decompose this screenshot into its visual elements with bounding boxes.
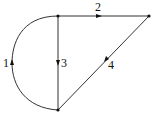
- edge-1: [12, 16, 58, 110]
- edge-4-label: 4: [108, 58, 114, 72]
- node-top: [56, 14, 59, 17]
- edge-3-label: 3: [61, 56, 67, 70]
- node-right: [147, 14, 150, 17]
- edge-1-arrow-icon: [10, 59, 14, 65]
- edge-2-arrow-icon: [96, 14, 102, 18]
- graph-diagram: 1 2 3 4: [0, 0, 152, 113]
- edge-3-arrow-icon: [56, 60, 60, 66]
- edge-2-label: 2: [95, 0, 101, 14]
- graph-svg: 1 2 3 4: [0, 0, 152, 113]
- node-bottom: [56, 108, 59, 111]
- edge-4: [58, 16, 149, 110]
- edge-1-label: 1: [3, 56, 9, 70]
